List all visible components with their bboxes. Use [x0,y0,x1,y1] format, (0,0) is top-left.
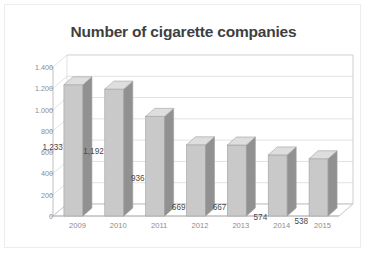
chart-frame: Number of cigarette companies 0200400600… [4,4,361,248]
bar-value-label-2014: 574 [254,212,268,221]
bar-value-label-2012: 669 [172,202,186,211]
bar-value-label-2010: 1,192 [83,147,104,156]
bar-value-label-2009: 1,233 [42,142,63,151]
bar-value-label-2015: 538 [294,216,308,225]
bar-value-label-2011: 936 [131,174,145,183]
bar-value-label-2013: 667 [213,203,227,212]
bar-value-labels: 1,2331,192936669667574538 [5,5,362,249]
